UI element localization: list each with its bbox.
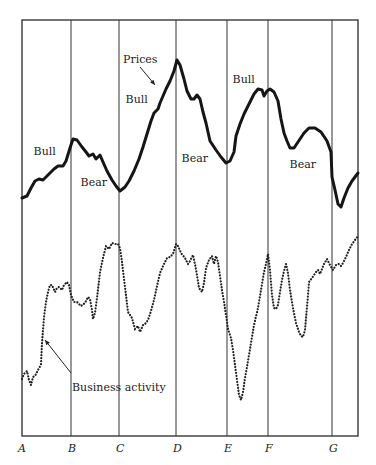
annotation-label: Prices <box>123 53 158 66</box>
x-tick-label: G <box>329 442 338 455</box>
chart-frame <box>22 20 358 436</box>
annotations: BullBearPricesBullBearBullBearBusiness a… <box>34 53 317 394</box>
x-axis-labels: ABCDEFG <box>17 442 338 455</box>
business-activity-line <box>22 236 358 400</box>
x-tick-label: B <box>67 442 76 455</box>
x-tick-label: F <box>264 442 273 455</box>
x-tick-label: C <box>116 442 125 455</box>
annotation-label: Business activity <box>72 381 167 394</box>
annotation-label: Bear <box>182 152 209 165</box>
turning-point-lines <box>71 20 332 436</box>
annotation-label: Bull <box>233 73 256 86</box>
price-line <box>22 60 358 207</box>
annotation-label: Bull <box>126 93 149 106</box>
x-tick-label: D <box>172 442 182 455</box>
annotation-label: Bear <box>290 158 317 171</box>
annotation-label: Bull <box>34 145 57 158</box>
bull-bear-chart: BullBearPricesBullBearBullBearBusiness a… <box>0 0 376 465</box>
annotation-label: Bear <box>81 176 108 189</box>
x-tick-label: E <box>223 442 232 455</box>
x-tick-label: A <box>17 442 26 455</box>
annotation-arrow <box>45 340 71 373</box>
